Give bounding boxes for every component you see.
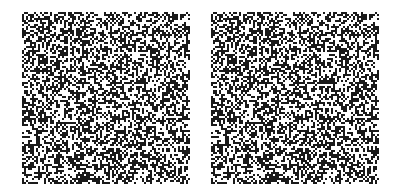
right-random-dot-panel: [211, 12, 379, 185]
left-random-dot-panel: [22, 12, 190, 185]
